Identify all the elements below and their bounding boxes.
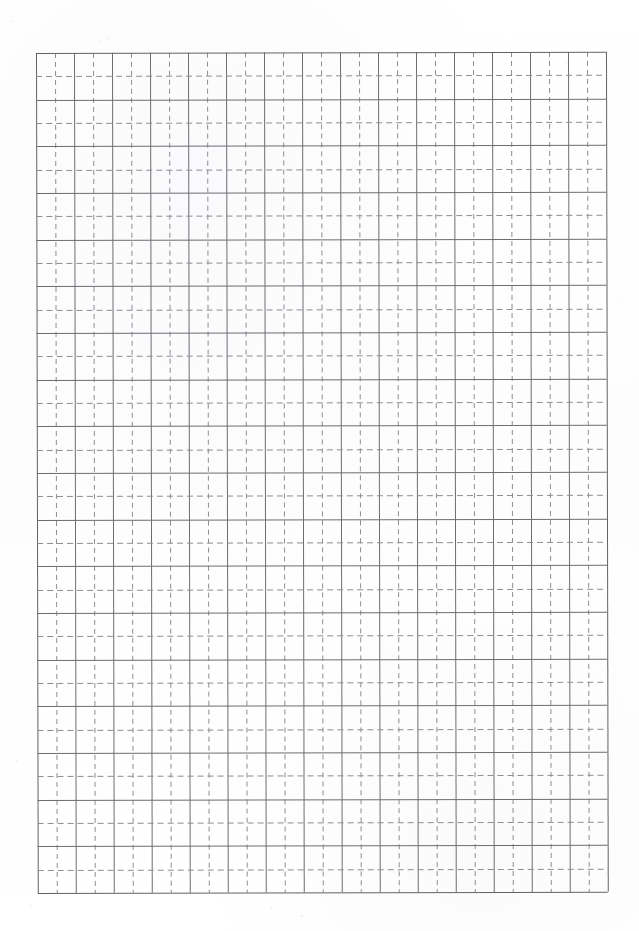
grid-line-vertical-major	[188, 53, 191, 893]
grid-line-horizontal-major	[36, 285, 606, 287]
grid-line-vertical-minor	[245, 53, 248, 893]
grid-line-horizontal-major	[38, 845, 608, 847]
scan-speck	[621, 298, 623, 300]
grid-paper-page	[0, 0, 639, 931]
grid-line-horizontal-minor	[37, 495, 607, 497]
grid-line-horizontal-minor	[36, 168, 606, 170]
grid-line-horizontal-minor	[37, 448, 607, 450]
grid-line-vertical-major	[416, 52, 419, 892]
scan-speck	[612, 610, 614, 612]
grid-line-vertical-minor	[93, 53, 96, 893]
scan-speck	[270, 907, 272, 909]
grid-line-vertical-major	[150, 53, 153, 893]
grid-line-horizontal-minor	[38, 775, 608, 777]
grid-line-vertical-minor	[587, 52, 590, 892]
grid-line-horizontal-minor	[36, 75, 606, 77]
grid-border-horizontal	[36, 52, 606, 54]
grid-line-vertical-minor	[321, 52, 324, 892]
grid-line-horizontal-major	[37, 565, 607, 567]
grid-line-vertical-major	[530, 52, 533, 892]
grid-line-horizontal-major	[37, 705, 607, 707]
grid-line-horizontal-minor	[36, 215, 606, 217]
grid-line-horizontal-major	[37, 378, 607, 380]
grid-line-horizontal-minor	[37, 308, 607, 310]
grid-line-horizontal-major	[36, 192, 606, 194]
grid-line-vertical-minor	[359, 52, 362, 892]
grid-line-horizontal-major	[37, 658, 607, 660]
grid-line-vertical-major	[264, 53, 267, 893]
grid-line-horizontal-minor	[38, 868, 608, 870]
scan-speck	[99, 40, 101, 42]
grid-line-vertical-minor	[397, 52, 400, 892]
grid-border-vertical	[606, 52, 609, 892]
grid-line-vertical-minor	[549, 52, 552, 892]
grid-line-vertical-major	[378, 52, 381, 892]
grid-line-horizontal-minor	[37, 542, 607, 544]
grid-line-horizontal-major	[37, 518, 607, 520]
grid-line-vertical-minor	[473, 52, 476, 892]
scan-speck	[300, 915, 303, 917]
grid-line-vertical-minor	[207, 53, 210, 893]
grid-skew-layer	[36, 52, 608, 893]
grid-line-vertical-major	[568, 52, 571, 892]
grid-line-vertical-major	[492, 52, 495, 892]
grid-line-horizontal-minor	[38, 822, 608, 824]
grid-line-vertical-minor	[55, 53, 58, 893]
scan-speck	[16, 760, 18, 762]
grid-line-horizontal-major	[36, 145, 606, 147]
grid-line-vertical-major	[340, 52, 343, 892]
grid-border-horizontal	[38, 892, 608, 894]
grid-line-horizontal-major	[37, 425, 607, 427]
scan-speck	[106, 37, 109, 40]
scan-speck	[30, 905, 32, 907]
grid-line-horizontal-minor	[36, 262, 606, 264]
grid-line-vertical-minor	[131, 53, 134, 893]
grid-line-vertical-major	[302, 52, 305, 892]
grid-border-vertical	[36, 53, 39, 893]
grid-line-vertical-minor	[511, 52, 514, 892]
grid-line-vertical-major	[74, 53, 77, 893]
grid-line-horizontal-major	[37, 472, 607, 474]
grid-line-vertical-major	[226, 53, 229, 893]
grid-line-horizontal-minor	[37, 402, 607, 404]
grid-line-horizontal-major	[36, 238, 606, 240]
grid-line-horizontal-minor	[37, 588, 607, 590]
grid-line-horizontal-major	[37, 612, 607, 614]
grid-line-horizontal-major	[38, 798, 608, 800]
grid-area	[36, 53, 606, 893]
grid-line-horizontal-minor	[36, 122, 606, 124]
grid-line-horizontal-minor	[37, 682, 607, 684]
scan-speck	[10, 20, 12, 22]
grid-line-horizontal-major	[37, 752, 607, 754]
grid-lines	[36, 52, 606, 53]
grid-line-horizontal-minor	[37, 355, 607, 357]
grid-line-vertical-major	[112, 53, 115, 893]
grid-line-vertical-minor	[283, 52, 286, 892]
grid-line-horizontal-major	[37, 332, 607, 334]
grid-line-vertical-major	[454, 52, 457, 892]
grid-line-horizontal-major	[36, 98, 606, 100]
grid-line-vertical-minor	[169, 53, 172, 893]
grid-line-horizontal-minor	[37, 635, 607, 637]
grid-line-vertical-minor	[435, 52, 438, 892]
grid-line-horizontal-minor	[37, 728, 607, 730]
